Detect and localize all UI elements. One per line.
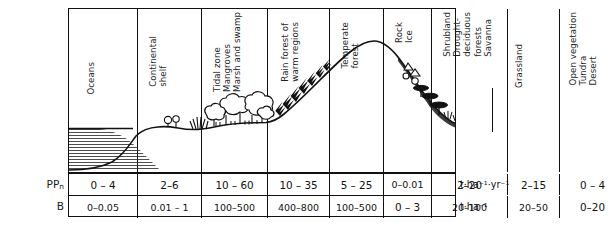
table-cell: 400–800	[267, 196, 329, 218]
column-divider	[559, 9, 560, 172]
table-cell: 0–0.01	[383, 174, 431, 195]
zone-label-temperate-forest: Temperate forest	[340, 22, 360, 69]
table-cell: 2–6	[137, 174, 201, 195]
zone-label-tidal-mangrove: Tidal zone Mangroves Marsh and swamp	[212, 12, 243, 92]
column-divider	[137, 9, 138, 172]
row-key-ppn-text: PP	[47, 178, 60, 190]
table-cell: 0 – 3	[383, 196, 431, 218]
column-divider	[201, 9, 202, 172]
table-cell: 100–500	[329, 196, 383, 218]
table-row-biomass: 0–0.05 0.01 – 1 100–500 400–800 100–500 …	[69, 196, 455, 218]
zone-label-rock-ice: Rock Ice	[394, 22, 414, 43]
table-cell: 5 – 25	[329, 174, 383, 195]
table-cell: 10 – 60	[201, 174, 267, 195]
table-cell: 0–0.05	[69, 196, 137, 218]
column-divider	[431, 9, 432, 172]
zone-label-grassland: Grassland	[514, 44, 524, 88]
data-table: 0 – 4 2–6 10 – 60 10 – 35 5 – 25 0–0.01 …	[68, 173, 456, 217]
table-cell: 0 – 4	[69, 174, 137, 195]
column-divider	[507, 9, 508, 172]
table-cell: 10 – 35	[267, 174, 329, 195]
column-divider	[267, 9, 268, 172]
column-divider	[383, 9, 384, 172]
row-key-ppn: PPn	[8, 173, 64, 195]
row-key-biomass: B	[8, 195, 64, 217]
zone-label-continental-shelf: Continental shelf	[148, 36, 168, 87]
table-cell: 0–20	[559, 196, 610, 218]
column-divider	[329, 9, 330, 172]
grassland-rule	[492, 88, 493, 132]
zone-label-shrubland-savanna: Shrubland Drought- deciduous forests Sav…	[442, 12, 493, 57]
table-row-ppn: 0 – 4 2–6 10 – 60 10 – 35 5 – 25 0–0.01 …	[69, 174, 455, 196]
unit-biomass: t·ha⁻¹	[460, 195, 550, 217]
zone-label-rain-forest: Rain forest of warm regions	[280, 22, 300, 82]
row-key-ppn-subscript: n	[59, 182, 64, 191]
zone-label-open-vegetation: Open vegetation Tundra Desert	[568, 12, 599, 85]
table-cell: 0 – 4	[559, 174, 610, 195]
zone-label-oceans: Oceans	[86, 62, 96, 95]
table-cell: 100–500	[201, 196, 267, 218]
unit-ppn: t·ha⁻¹·yr⁻¹	[460, 173, 550, 195]
table-cell: 0.01 – 1	[137, 196, 201, 218]
